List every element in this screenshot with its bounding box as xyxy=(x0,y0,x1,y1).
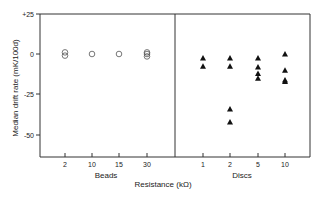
filled-triangle-marker xyxy=(227,106,233,112)
open-circle-marker xyxy=(116,51,122,57)
x-tick-label: 2 xyxy=(63,161,67,168)
panel-label-discs: Discs xyxy=(232,171,252,180)
filled-triangle-marker xyxy=(200,63,206,69)
y-axis xyxy=(36,14,40,135)
x-axis-label: Resistance (kΩ) xyxy=(134,180,191,189)
x-tick-label: 10 xyxy=(281,161,289,168)
x-tick-label: 5 xyxy=(256,161,260,168)
x-tick-label: 1 xyxy=(201,161,205,168)
x-tick-label: 15 xyxy=(115,161,123,168)
filled-triangle-marker xyxy=(282,67,288,73)
filled-triangle-marker xyxy=(282,51,288,57)
x-tick-label: 2 xyxy=(228,161,232,168)
filled-triangle-marker xyxy=(255,55,261,61)
y-tick-label: +25 xyxy=(22,11,34,18)
filled-triangle-marker xyxy=(227,119,233,125)
y-tick-label: -50 xyxy=(24,132,34,139)
x-tick-label: 30 xyxy=(143,161,151,168)
y-tick-label: 0 xyxy=(30,51,34,58)
filled-triangle-marker xyxy=(227,63,233,69)
filled-triangle-marker xyxy=(255,70,261,76)
open-circle-marker xyxy=(89,51,95,57)
open-circle-marker xyxy=(62,50,68,56)
x-tick-label: 10 xyxy=(88,161,96,168)
plot-frame xyxy=(40,14,310,157)
filled-triangle-marker xyxy=(227,55,233,61)
filled-triangle-marker xyxy=(255,75,261,81)
drift-rate-chart: +25 0 -25 -50 Median drift rate (mK/100d… xyxy=(0,0,322,198)
filled-triangle-marker xyxy=(200,55,206,61)
y-tick-label: -25 xyxy=(24,91,34,98)
y-axis-label: Median drift rate (mK/100d) xyxy=(11,39,20,137)
filled-triangle-marker xyxy=(255,64,261,70)
panel-label-beads: Beads xyxy=(95,171,118,180)
open-circle-marker xyxy=(62,53,68,59)
